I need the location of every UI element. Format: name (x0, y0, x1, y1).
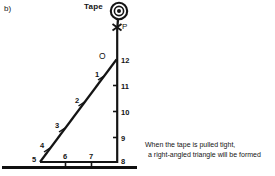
hypotenuse-label-2: 2 (75, 96, 79, 105)
tape-roll-icon (111, 3, 127, 19)
caption-line-2: a right-angled triangle will be formed (145, 150, 273, 160)
caption: When the tape is pulled tight, a right-a… (145, 140, 273, 160)
caption-line-1: When the tape is pulled tight, (145, 140, 273, 150)
horizontal-scale-label-6: 6 (63, 152, 67, 161)
horizontal-scale-label-5: 5 (32, 155, 36, 164)
figure-panel: b) Tape P O (0, 0, 275, 176)
vertical-scale-label-12: 12 (121, 56, 129, 65)
vertical-scale-label-9: 9 (121, 134, 125, 143)
hypotenuse-label-3: 3 (55, 121, 59, 130)
hypotenuse-line (40, 60, 117, 163)
horizontal-scale-label-7: 7 (89, 152, 93, 161)
hypotenuse-label-4: 4 (40, 141, 44, 150)
hypotenuse-label-1: 1 (95, 70, 99, 79)
vertical-scale-label-8: 8 (121, 157, 125, 166)
vertical-scale-label-11: 11 (121, 82, 129, 91)
vertical-scale-label-10: 10 (121, 108, 129, 117)
